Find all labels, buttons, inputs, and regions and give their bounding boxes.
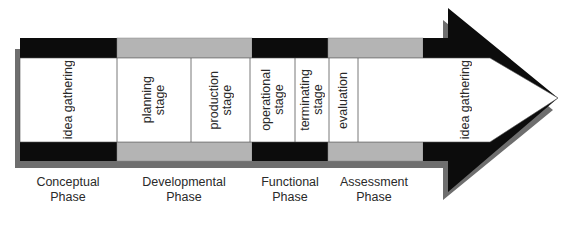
bottom-band-conceptual [20, 142, 117, 161]
phase-label-functional: Functional Phase [250, 175, 330, 205]
phase-label-conceptual: Conceptual Phase [18, 175, 118, 205]
stage-idea-gathering-repeat: idea gathering [440, 58, 490, 142]
stage-operational: operational stage [250, 58, 295, 142]
stage-label: production stage [208, 71, 234, 129]
stage-terminating: terminating stage [295, 58, 329, 142]
stage-label: idea gathering [62, 60, 75, 139]
stage-label: terminating stage [299, 69, 325, 131]
stage-evaluation: evaluation [329, 58, 358, 142]
top-band-conceptual [20, 38, 117, 58]
top-band-functional [252, 38, 328, 58]
stage-label: planning stage [141, 76, 167, 123]
phase-label-assessment: Assessment Phase [330, 175, 418, 205]
stage-label: operational stage [260, 69, 286, 131]
top-band-developmental [117, 38, 252, 58]
top-band-assessment [328, 38, 423, 58]
bottom-band-assessment [328, 142, 423, 161]
stage-planning: planning stage [117, 58, 191, 142]
stage-label: idea gathering [459, 60, 472, 139]
stage-label: evaluation [337, 72, 350, 129]
stage-idea-gathering: idea gathering [20, 58, 117, 142]
stage-production: production stage [191, 58, 250, 142]
bottom-band-developmental [117, 142, 252, 161]
bottom-band-functional [252, 142, 328, 161]
phase-label-developmental: Developmental Phase [128, 175, 240, 205]
